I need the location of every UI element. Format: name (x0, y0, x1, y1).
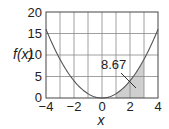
area-annotation: 8.67 (101, 57, 126, 72)
chart: 0 5 10 15 20 −4 −2 0 2 4 x f(x) 8.67 (0, 0, 169, 129)
y-tick-label: 15 (28, 26, 42, 41)
y-axis-label: f(x) (13, 46, 33, 62)
x-tick-label: 4 (154, 99, 161, 114)
x-tick-label: −2 (67, 99, 82, 114)
x-tick-label: 2 (126, 99, 133, 114)
y-tick-label: 20 (28, 5, 42, 20)
x-tick-label: −4 (39, 99, 54, 114)
x-axis-label: x (97, 112, 106, 128)
y-tick-label: 5 (35, 69, 42, 84)
